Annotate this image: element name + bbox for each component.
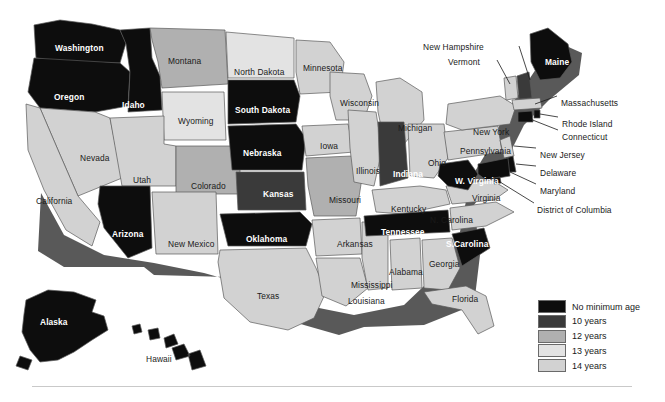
- state-wyoming: [162, 92, 226, 140]
- state-rhodeisland: [534, 110, 540, 118]
- legend-item: 13 years: [538, 344, 660, 357]
- state-kansas: [236, 172, 306, 210]
- state-southdakota: [228, 80, 300, 124]
- legend-label: No minimum age: [572, 302, 640, 312]
- legend-label: 12 years: [572, 331, 607, 341]
- state-hawaii: [132, 324, 206, 370]
- state-louisiana: [316, 258, 368, 306]
- legend-label: 10 years: [572, 316, 607, 326]
- state-oregon: [28, 58, 130, 112]
- legend-label: 13 years: [572, 346, 607, 356]
- legend-swatch-14: [538, 359, 566, 372]
- state-northcarolina: [450, 202, 514, 230]
- legend-swatch-none: [538, 300, 566, 313]
- state-connecticut: [518, 111, 533, 122]
- state-kentucky: [372, 186, 450, 214]
- bottom-divider: [32, 386, 632, 387]
- state-northdakota: [226, 32, 294, 78]
- state-iowa: [302, 124, 354, 156]
- state-nebraska: [228, 124, 306, 170]
- state-tennessee: [364, 210, 450, 236]
- state-alaska: [16, 290, 108, 370]
- map-figure: WashingtonOregonIdahoMontanaWyomingNevad…: [0, 0, 665, 402]
- state-arkansas: [312, 218, 362, 256]
- legend-label: 14 years: [572, 361, 607, 371]
- legend-item: No minimum age: [538, 300, 660, 313]
- minimum-age-legend: No minimum age10 years12 years13 years14…: [538, 300, 660, 374]
- state-vermont: [504, 76, 518, 100]
- state-illinois: [348, 110, 382, 186]
- state-alabama: [390, 238, 422, 290]
- legend-swatch-13: [538, 344, 566, 357]
- state-washington: [34, 20, 126, 63]
- state-arizona: [98, 186, 152, 258]
- legend-item: 10 years: [538, 315, 660, 328]
- state-newhampshire: [517, 72, 532, 99]
- state-indiana: [378, 122, 408, 186]
- legend-item: 14 years: [538, 359, 660, 372]
- state-dc: [494, 177, 501, 184]
- state-oklahoma: [220, 212, 312, 246]
- state-newmexico: [152, 192, 218, 254]
- state-newyork: [446, 96, 516, 130]
- legend-swatch-10: [538, 315, 566, 328]
- state-massachusetts: [512, 98, 542, 110]
- legend-swatch-12: [538, 330, 566, 343]
- state-texas: [218, 248, 326, 330]
- states-layer: [16, 20, 572, 370]
- state-montana: [150, 28, 228, 88]
- legend-item: 12 years: [538, 330, 660, 343]
